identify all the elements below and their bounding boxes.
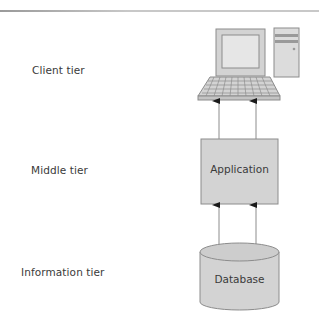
monitor-icon <box>216 29 265 76</box>
architecture-diagram: Application Database <box>0 0 319 324</box>
tower-icon <box>274 28 299 77</box>
arrows-information-to-middle <box>219 205 256 245</box>
database-cylinder-icon: Database <box>200 243 279 310</box>
application-label: Application <box>210 163 269 175</box>
application-box: Application <box>201 139 278 204</box>
arrows-middle-to-client <box>219 101 256 139</box>
keyboard-icon <box>198 77 280 100</box>
database-label: Database <box>214 273 264 285</box>
desktop-computer-icon <box>198 28 299 100</box>
